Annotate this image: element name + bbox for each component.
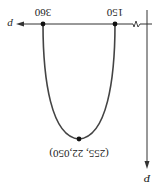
x-axis-arrow-icon (16, 22, 24, 27)
x-axis-label: p (7, 19, 14, 31)
axis-break-icon (133, 21, 140, 27)
vertex-point (77, 137, 82, 142)
root-label-150: 150 (106, 7, 123, 19)
root-point-150 (113, 22, 118, 27)
y-axis-label: P (143, 173, 151, 185)
parabola-curve (43, 24, 115, 139)
y-axis-arrow-icon (145, 161, 150, 169)
root-label-360: 360 (34, 7, 51, 19)
vertex-label: (255, 22,050) (49, 147, 109, 160)
root-point-360 (41, 22, 46, 27)
parabola-graph: 150 360 (255, 22,050) p P (0, 0, 162, 189)
